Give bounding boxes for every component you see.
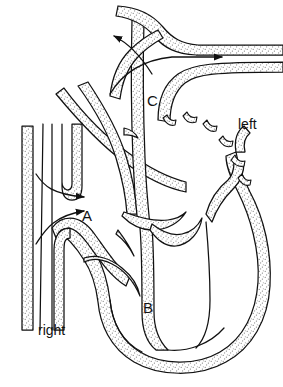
vessel-superior-vena-cava [62,124,82,200]
chamber-label-b: B [143,300,153,315]
interventricular-septum [140,228,168,350]
chamber-label-a: A [82,208,92,223]
side-label-right: right [38,323,65,337]
vessel-pulmonary-right [158,62,283,122]
side-label-left: left [238,117,257,131]
anatomical-figure: A B C right left [0,0,283,387]
vessel-left-outline [40,124,52,330]
chamber-label-c: C [147,93,158,108]
vessel-left-descending [22,126,33,330]
vessel-inferior-vena-cava [54,228,70,330]
